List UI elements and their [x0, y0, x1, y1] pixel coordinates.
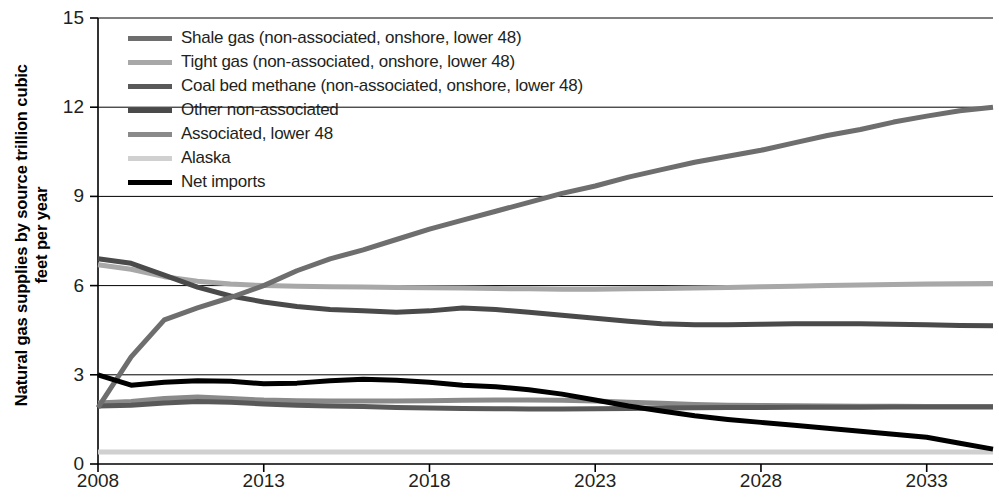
- series-line: [98, 259, 993, 326]
- y-axis-tick-label: 15: [50, 7, 84, 29]
- x-axis-tick-label: 2018: [408, 470, 450, 492]
- legend-color-swatch: [128, 180, 172, 185]
- x-axis-tick-label: 2013: [243, 470, 285, 492]
- y-axis-tick-label: 9: [50, 185, 84, 207]
- legend-color-swatch: [128, 132, 172, 137]
- x-axis-tick-label: 2033: [906, 470, 948, 492]
- legend-item[interactable]: Other non-associated: [128, 98, 583, 122]
- legend-item[interactable]: Shale gas (non-associated, onshore, lowe…: [128, 26, 583, 50]
- chart-legend: Shale gas (non-associated, onshore, lowe…: [128, 26, 583, 194]
- legend-item[interactable]: Associated, lower 48: [128, 122, 583, 146]
- legend-item-label: Tight gas (non-associated, onshore, lowe…: [181, 52, 515, 72]
- legend-color-swatch: [128, 84, 172, 89]
- x-axis-tick-label: 2023: [574, 470, 616, 492]
- x-axis-tick-label: 2008: [77, 470, 119, 492]
- y-axis-tick-label: 6: [50, 275, 84, 297]
- legend-color-swatch: [128, 156, 172, 161]
- y-axis-tick-label: 3: [50, 364, 84, 386]
- legend-item[interactable]: Coal bed methane (non-associated, onshor…: [128, 74, 583, 98]
- x-axis-tick-label: 2028: [740, 470, 782, 492]
- legend-item[interactable]: Alaska: [128, 146, 583, 170]
- legend-item-label: Associated, lower 48: [181, 124, 333, 144]
- y-axis-tick-label: 12: [50, 96, 84, 118]
- legend-item-label: Other non-associated: [181, 100, 339, 120]
- legend-item-label: Coal bed methane (non-associated, onshor…: [181, 76, 583, 96]
- legend-item[interactable]: Tight gas (non-associated, onshore, lowe…: [128, 50, 583, 74]
- series-line: [98, 375, 993, 449]
- legend-item-label: Alaska: [181, 148, 231, 168]
- natural-gas-supplies-line-chart: Natural gas supplies by source trillion …: [0, 0, 999, 499]
- legend-item-label: Net imports: [181, 172, 265, 192]
- legend-color-swatch: [128, 60, 172, 65]
- legend-item-label: Shale gas (non-associated, onshore, lowe…: [181, 28, 521, 48]
- legend-color-swatch: [128, 36, 172, 41]
- legend-color-swatch: [128, 108, 172, 113]
- legend-item[interactable]: Net imports: [128, 170, 583, 194]
